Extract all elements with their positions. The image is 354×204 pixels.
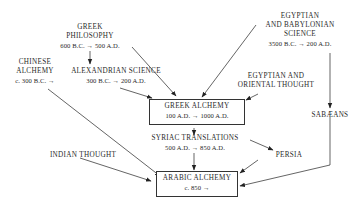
node-name: INDIAN THOUGHT <box>44 151 122 160</box>
node-name: PHILOSOPHY <box>52 32 128 41</box>
node-name: EGYPTIAN AND <box>236 72 316 81</box>
node-name: GREEK <box>52 23 128 32</box>
node-egyptian-babylonian-science: EGYPTIAN AND BABYLONIAN SCIENCE 3500 B.C… <box>254 12 346 48</box>
node-dates: 100 A.D. → 1000 A.D. <box>149 111 245 120</box>
node-greek-philosophy: GREEK PHILOSOPHY 600 B.C. → 500 A.D. <box>52 23 128 50</box>
node-name: ORIENTAL THOUGHT <box>236 81 316 90</box>
node-name: ALEXANDRIAN SCIENCE <box>66 67 166 76</box>
node-syriac-translations: SYRIAC TRANSLATIONS 500 A.D. → 850 A.D. <box>142 134 248 152</box>
node-name: SCIENCE <box>254 30 346 39</box>
node-name: GREEK ALCHEMY <box>149 102 245 111</box>
node-chinese-alchemy: CHINESE ALCHEMY c. 300 B.C. → <box>6 58 64 85</box>
node-egyptian-oriental-thought: EGYPTIAN AND ORIENTAL THOUGHT <box>236 72 316 90</box>
node-dates: 3500 B.C. → 200 A.D. <box>254 39 346 48</box>
node-dates: 500 A.D. → 850 A.D. <box>142 143 248 152</box>
node-sabaeans: SABÆANS <box>308 111 352 120</box>
node-name: CHINESE <box>6 58 64 67</box>
node-dates: 300 B.C. → 200 A.D. <box>66 76 166 85</box>
node-name: PERSIA <box>272 151 306 160</box>
node-alexandrian-science: ALEXANDRIAN SCIENCE 300 B.C. → 200 A.D. <box>66 67 166 85</box>
node-name: ALCHEMY <box>6 67 64 76</box>
node-name: AND BABYLONIAN <box>254 21 346 30</box>
node-name: SYRIAC TRANSLATIONS <box>142 134 248 143</box>
node-greek-alchemy-label: GREEK ALCHEMY 100 A.D. → 1000 A.D. <box>149 102 245 120</box>
node-arabic-alchemy-label: ARABIC ALCHEMY c. 850 → <box>156 174 238 192</box>
node-dates: c. 850 → <box>156 183 238 192</box>
node-dates: c. 300 B.C. → <box>6 76 64 85</box>
node-name: EGYPTIAN <box>254 12 346 21</box>
node-name: ARABIC ALCHEMY <box>156 174 238 183</box>
node-name: SABÆANS <box>308 111 352 120</box>
node-dates: 600 B.C. → 500 A.D. <box>52 41 128 50</box>
node-indian-thought: INDIAN THOUGHT <box>44 151 122 160</box>
node-persia: PERSIA <box>272 151 306 160</box>
